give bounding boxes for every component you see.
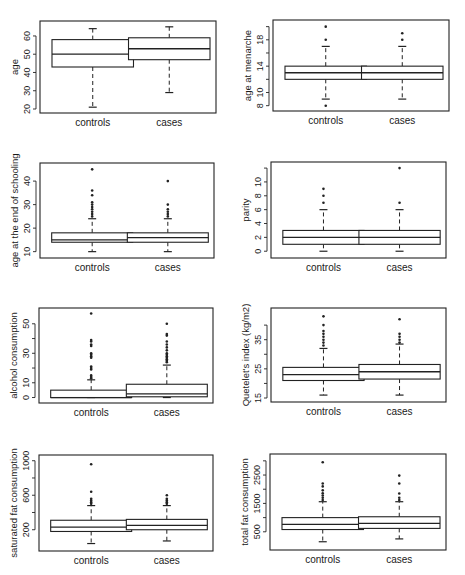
outlier-point (398, 496, 401, 499)
outlier-point (167, 213, 170, 216)
outlier-point (166, 343, 169, 346)
outlier-point (91, 213, 94, 216)
box-controls (283, 188, 364, 252)
y-tick-label: 6 (253, 207, 263, 212)
x-category-label: controls (75, 117, 110, 128)
y-tick-label: 10 (22, 247, 32, 257)
outlier-point (166, 494, 169, 497)
outlier-point (90, 490, 93, 493)
outlier-point (166, 349, 169, 352)
x-category-label: cases (156, 117, 182, 128)
iqr-box (51, 520, 132, 531)
outlier-point (90, 339, 93, 342)
x-category-label: controls (75, 262, 110, 273)
box-cases (359, 474, 440, 539)
x-category-label: controls (305, 554, 340, 565)
y-tick-label: 20 (22, 104, 32, 114)
y-tick-label: 20 (22, 223, 32, 233)
outlier-point (401, 32, 404, 35)
outlier-point (91, 189, 94, 192)
outlier-point (166, 346, 169, 349)
box-controls (282, 461, 363, 542)
box-cases (126, 322, 207, 397)
iqr-box (126, 519, 207, 529)
x-category-label: controls (306, 406, 341, 417)
x-category-label: cases (155, 262, 181, 273)
y-tick-label: 0 (21, 395, 31, 400)
box-cases (359, 318, 440, 395)
y-tick-label: 25 (253, 364, 263, 374)
y-axis-label: Quetelet's index (kg/m2) (240, 304, 251, 407)
y-axis-label: age (9, 59, 20, 75)
y-tick-label: 15 (253, 393, 263, 403)
outlier-point (90, 374, 93, 377)
y-tick-label: 600 (21, 488, 31, 503)
y-tick-label: 30 (21, 348, 31, 358)
x-category-label: controls (306, 262, 341, 273)
box-controls (52, 168, 133, 252)
outlier-point (90, 365, 93, 368)
x-category-label: cases (386, 406, 412, 417)
y-tick-label: 4 (253, 221, 263, 226)
y-axis-label: alcohol consumption (8, 312, 19, 399)
outlier-point (398, 499, 401, 502)
iqr-box (126, 384, 207, 397)
outlier-point (322, 324, 325, 327)
outlier-point (90, 463, 93, 466)
outlier-point (91, 210, 94, 213)
outlier-point (398, 201, 401, 204)
outlier-point (398, 482, 401, 485)
outlier-point (166, 352, 169, 355)
outlier-point (322, 330, 325, 333)
boxplot-panel-6: 152535Quetelet's index (kg/m2)controlsca… (240, 304, 446, 417)
y-axis-label: saturated fat consumption (8, 448, 19, 557)
iqr-box (359, 517, 440, 529)
outlier-point (321, 489, 324, 492)
y-tick-label: 2500 (252, 465, 262, 485)
boxplot-panel-5: 0103050alcohol consumptioncontrolscases (8, 308, 213, 418)
outlier-point (322, 333, 325, 336)
iqr-box (283, 367, 364, 380)
outlier-point (321, 482, 324, 485)
box-cases (362, 32, 443, 99)
iqr-box (52, 40, 133, 67)
outlier-point (321, 496, 324, 499)
y-tick-label: 50 (21, 319, 31, 329)
outlier-point (322, 188, 325, 191)
iqr-box (282, 518, 363, 530)
y-axis-label: age at menarche (242, 30, 253, 101)
y-tick-label: 8 (255, 103, 265, 108)
outlier-point (321, 461, 324, 464)
outlier-point (322, 344, 325, 347)
outlier-point (167, 203, 170, 206)
outlier-point (90, 352, 93, 355)
outlier-point (167, 210, 170, 213)
x-category-label: cases (154, 407, 180, 418)
y-tick-label: 10 (253, 177, 263, 187)
y-tick-label: 40 (22, 67, 32, 77)
y-tick-label: 10 (255, 88, 265, 98)
box-controls (51, 463, 132, 544)
y-tick-label: 14 (255, 61, 265, 71)
plot-frame (271, 308, 446, 402)
outlier-point (321, 499, 324, 502)
x-category-label: cases (389, 115, 415, 126)
y-tick-label: 1000 (21, 451, 31, 471)
outlier-point (91, 206, 94, 209)
iqr-box (52, 233, 133, 242)
x-category-label: controls (308, 115, 343, 126)
x-category-label: cases (154, 555, 180, 566)
x-category-label: controls (74, 555, 109, 566)
boxplot-panel-2: 8101418age at menarchecontrolscases (242, 20, 449, 126)
y-tick-label: 40 (22, 176, 32, 186)
outlier-point (398, 167, 401, 170)
outlier-point (322, 335, 325, 338)
outlier-point (324, 104, 327, 107)
boxplot-panel-8: 50015002500total fat consumptioncontrols… (239, 454, 446, 565)
outlier-point (322, 201, 325, 204)
y-tick-label: 60 (22, 31, 32, 41)
outlier-point (401, 39, 404, 42)
outlier-point (91, 201, 94, 204)
x-category-label: controls (74, 407, 109, 418)
outlier-point (398, 492, 401, 495)
